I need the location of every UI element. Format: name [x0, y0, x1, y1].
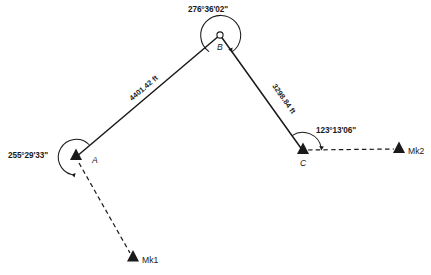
traverse-canvas: 255°29'33" 276°36'02" 123°13'06" 4401.42…	[0, 0, 431, 275]
station-label-b: B	[217, 42, 223, 52]
mark-label-mk1: Mk1	[142, 255, 158, 265]
angle-arrow-station-a	[72, 173, 76, 178]
survey-traverse-diagram: 255°29'33" 276°36'02" 123°13'06" 4401.42…	[0, 0, 431, 275]
course-line-b-c	[220, 35, 303, 151]
sight-line-a-mk1	[79, 163, 130, 253]
angle-label-station-b: 276°36'02"	[188, 5, 228, 14]
station-label-c: C	[300, 158, 307, 168]
angle-label-station-a: 255°29'33"	[8, 151, 48, 160]
course-line-a-b	[76, 35, 220, 157]
station-marker-b	[217, 32, 223, 38]
mark-label-mk2: Mk2	[408, 146, 424, 156]
mark-marker-mk2	[393, 142, 405, 154]
angle-label-station-c: 123°13'06"	[316, 126, 356, 135]
distance-label-course-ab: 4401.42 ft	[128, 73, 161, 102]
station-label-a: A	[91, 155, 98, 165]
